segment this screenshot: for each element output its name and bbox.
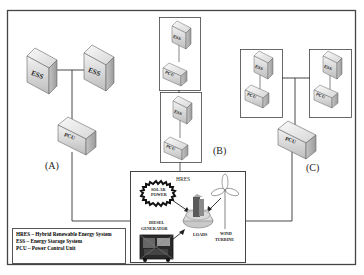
legend-item-hres: HRES – Hybrid Renewable Energy System (16, 231, 122, 238)
diesel-label-1: DIESEL (149, 220, 164, 225)
legend-item-ess: ESS – Energy Storage System (16, 238, 122, 245)
config-a-label: (A) (45, 160, 59, 171)
config-c-label: (C) (306, 162, 319, 173)
diagram-canvas: ESS ESS PCU ESS PCU ESS PCU ESS PCU ESS … (0, 0, 364, 275)
config-b-label: (B) (213, 145, 226, 156)
solar-label-2: POWER (151, 192, 167, 197)
wind-label-1: WIND (220, 231, 232, 236)
hres-box (131, 172, 246, 263)
diesel-generator-icon (140, 235, 173, 262)
config-c (241, 50, 352, 222)
config-b (160, 18, 202, 175)
legend: HRES – Hybrid Renewable Energy System ES… (12, 228, 126, 264)
diesel-label-2: GENERATOR (141, 226, 168, 231)
wind-label-2: TURBINE (215, 237, 234, 242)
config-a (27, 45, 131, 221)
loads-label: LOADS (193, 232, 207, 237)
hres-title: HRES (176, 176, 190, 182)
legend-item-pcu: PCU – Power Control Unit (16, 245, 122, 252)
